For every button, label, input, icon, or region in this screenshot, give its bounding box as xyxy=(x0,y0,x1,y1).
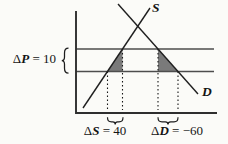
delta-symbol: Δ xyxy=(13,51,21,66)
delta-p-value: = 10 xyxy=(29,51,56,66)
diagram-stage: ΔP = 10 S D ΔS = 40 ΔD = −60 xyxy=(0,0,228,144)
delta-s-label: ΔS = 40 xyxy=(76,124,134,138)
delta-symbol: Δ xyxy=(84,123,92,138)
delta-p-brace xyxy=(62,48,69,73)
axes xyxy=(76,11,217,113)
supply-curve-label: S xyxy=(152,1,160,15)
demand-variable: D xyxy=(159,123,168,138)
price-variable: P xyxy=(21,51,29,66)
supply-curve xyxy=(83,8,150,108)
demand-curve-label: D xyxy=(202,85,212,99)
delta-s-value: = 40 xyxy=(99,123,126,138)
delta-p-label: ΔP = 10 xyxy=(4,52,56,66)
delta-d-label: ΔD = −60 xyxy=(146,124,208,138)
delta-d-value: = −60 xyxy=(169,123,203,138)
